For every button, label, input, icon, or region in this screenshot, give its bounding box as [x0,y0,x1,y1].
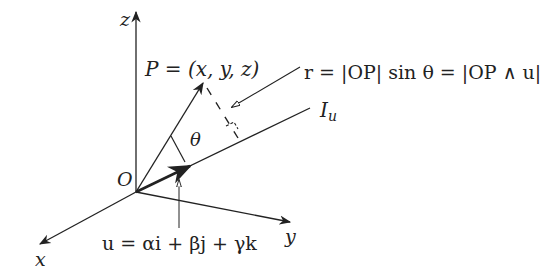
y-axis-label: y [284,225,296,247]
distance-formula: r = |OP| sin θ = |OP ∧ u| [304,61,541,84]
vector-u-formula: u = αi + βj + γk [102,232,257,254]
angle-arc [171,136,185,162]
origin-label: O [117,168,133,190]
perpendicular-dashed [207,88,238,138]
vector-diagram: z x y O P = (x, y, z) θ Iu r = |OP| sin … [0,0,555,278]
right-angle-mark [226,122,238,129]
point-p-label: P = (x, y, z) [144,57,259,81]
x-axis-label: x [35,248,46,270]
z-axis-label: z [119,8,131,30]
line-iu-subscript: u [328,108,337,124]
line-iu-label: Iu [319,98,337,124]
theta-label: θ [190,129,201,150]
y-axis [136,192,290,222]
